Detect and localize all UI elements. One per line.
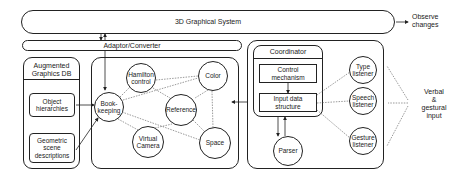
speech-listener: Speech listener	[349, 87, 377, 115]
db-title: Augmented Graphics DB	[23, 62, 80, 78]
agent-hamilton-control: Hamilton control	[126, 63, 156, 93]
coordinator-title: Coordinator	[253, 48, 323, 56]
observe-changes-label: Observe changes	[412, 13, 452, 29]
type-listener: Type listener	[349, 56, 377, 84]
db-divider	[23, 79, 80, 80]
agent-space: Space	[199, 127, 231, 159]
agent-bookkeeping: Book- keeping	[94, 92, 124, 122]
object-hierarchies: Object hierarchies	[29, 93, 75, 117]
gesture-listener: Gesture listener	[349, 127, 377, 155]
adaptor-label: Adaptor/Converter	[22, 42, 242, 50]
verbal-gestural-input-label: Verbal & gestural input	[414, 88, 454, 120]
agent-virtual-camera: Virtual Camera	[132, 126, 164, 158]
graphical-system-label: 3D Graphical System	[21, 18, 395, 26]
parser: Parser	[273, 136, 303, 166]
control-mechanism: Control mechanism	[259, 64, 317, 83]
geometric-scene-descriptions: Geometric scene descriptions	[29, 133, 75, 163]
input-data-structure: Input data structure	[259, 93, 317, 112]
coordinator-divider	[253, 58, 323, 59]
agent-color: Color	[198, 61, 228, 91]
agent-reference: Reference	[165, 94, 197, 126]
